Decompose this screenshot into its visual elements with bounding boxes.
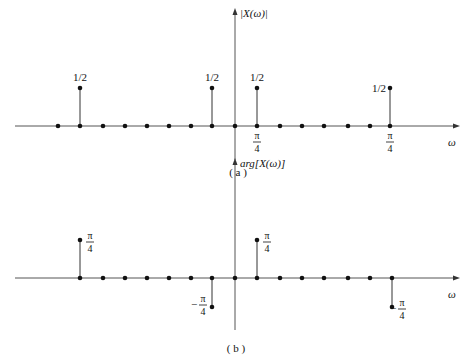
panel-b-sample-dot-10 xyxy=(300,276,305,281)
panel-b-stem-label-3-sign: − xyxy=(390,302,396,314)
panel-b-x-arrow-icon xyxy=(453,276,460,281)
panel-a-sample-dot-2 xyxy=(101,124,106,129)
panel-b-sample-dot-9 xyxy=(278,276,283,281)
panel-a-y-arrow-icon xyxy=(233,8,238,15)
panel-a-sample-dot-11 xyxy=(300,124,305,129)
panel-b-stem-label-3-num: π xyxy=(399,297,404,308)
panel-a-sample-dot-1 xyxy=(78,124,83,129)
panel-b-stem-label-0-num: π xyxy=(87,230,92,241)
panel-b-stem-tip-1 xyxy=(210,305,215,310)
panel-a-stem-label-2: 1/2 xyxy=(250,71,264,83)
panel-a-sample-dot-8 xyxy=(233,124,238,129)
panel-a-y-label: |X(ω)| xyxy=(240,7,268,20)
panel-b-stem-label-1-sign: − xyxy=(191,298,197,310)
panel-b-sample-dot-11 xyxy=(322,276,327,281)
panel-a-sample-dot-9 xyxy=(255,124,260,129)
panel-a-sample-dot-3 xyxy=(123,124,128,129)
panel-b-sample-dot-2 xyxy=(123,276,128,281)
panel-a-tick-label-1-den: 4 xyxy=(388,143,393,154)
panel-a-tick-label-0-num: π xyxy=(254,130,259,141)
panel-b-stem-tip-2 xyxy=(255,238,260,243)
caption-a-text: ( a ) xyxy=(229,166,247,179)
panel-b-stem-label-2-num: π xyxy=(264,230,269,241)
panel-b-sample-dot-0 xyxy=(78,276,83,281)
panel-b-sample-dot-4 xyxy=(167,276,172,281)
panel-b-stem-label-0-den: 4 xyxy=(88,243,93,254)
panel-b-stem-label-1-num: π xyxy=(200,293,205,304)
panel-b-sample-dot-13 xyxy=(368,276,373,281)
panel-a-stem-label-0: 1/2 xyxy=(73,71,87,83)
panel-b-stem-tip-0 xyxy=(78,238,83,243)
panel-a-x-arrow-icon xyxy=(453,124,460,129)
panel-a-stem-tip-2 xyxy=(255,86,260,91)
panel-a-sample-dot-13 xyxy=(346,124,351,129)
panel-a-sample-dot-7 xyxy=(210,124,215,129)
panel-b-sample-dot-6 xyxy=(210,276,215,281)
panel-b-sample-dot-8 xyxy=(255,276,260,281)
panel-a-stem-tip-0 xyxy=(78,86,83,91)
panel-b-sample-dot-14 xyxy=(390,276,395,281)
panel-b-sample-dot-5 xyxy=(189,276,194,281)
panel-b-sample-dot-1 xyxy=(101,276,106,281)
panel-a-stem-label-3: 1/2 xyxy=(372,82,386,94)
panel-b-stem-label-3-den: 4 xyxy=(400,310,405,321)
panel-a-stem-tip-3 xyxy=(388,86,393,91)
panel-a-tick-label-0-den: 4 xyxy=(255,143,260,154)
panel-b-x-label: ω xyxy=(448,288,456,300)
panel-a-stem-tip-1 xyxy=(210,86,215,91)
panel-b-stem-label-2-den: 4 xyxy=(265,243,270,254)
panel-b-sample-dot-3 xyxy=(145,276,150,281)
caption-b-text: ( b ) xyxy=(227,342,246,355)
panel-b-sample-dot-12 xyxy=(346,276,351,281)
panel-b-sample-dot-7 xyxy=(233,276,238,281)
panel-a-stem-label-1: 1/2 xyxy=(205,71,219,83)
panel-b-stem-label-1-den: 4 xyxy=(201,306,206,317)
panel-a-sample-dot-10 xyxy=(278,124,283,129)
panel-b-y-arrow-icon xyxy=(233,158,238,165)
panel-a-sample-dot-5 xyxy=(167,124,172,129)
panel-a-sample-dot-12 xyxy=(322,124,327,129)
panel-a-sample-dot-15 xyxy=(388,124,393,129)
panel-a-sample-dot-6 xyxy=(189,124,194,129)
panel-a-x-label: ω xyxy=(448,136,456,148)
panel-a-sample-dot-4 xyxy=(145,124,150,129)
panel-a-sample-dot-14 xyxy=(368,124,373,129)
stem-plot-figure: |X(ω)|ω1/21/21/21/2π4π4arg[X(ω)]ωπ4π4−π4… xyxy=(0,0,464,360)
panel-a-sample-dot-0 xyxy=(56,124,61,129)
panel-a-tick-label-1-num: π xyxy=(387,130,392,141)
